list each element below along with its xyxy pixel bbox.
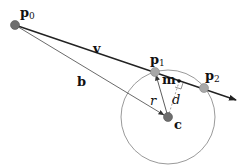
right-angle-mark <box>175 83 183 89</box>
point-p1 <box>151 68 160 77</box>
point-m <box>177 79 181 83</box>
point-c <box>164 113 173 122</box>
label-p1: p1 <box>150 52 165 68</box>
vector-b <box>15 25 164 115</box>
label-d: d <box>172 92 180 107</box>
label-b: b <box>77 74 86 89</box>
point-p0 <box>11 21 20 30</box>
label-r: r <box>150 93 157 108</box>
label-m: m <box>162 72 176 87</box>
label-p0: p0 <box>20 5 35 21</box>
label-c: c <box>174 117 182 132</box>
label-v: v <box>92 41 101 56</box>
ray-sphere-diagram: p0 p1 p2 c m v b r d <box>0 0 245 168</box>
point-p2 <box>200 84 209 93</box>
diagram-canvas: p0 p1 p2 c m v b r d <box>0 0 245 168</box>
label-p2: p2 <box>205 68 220 84</box>
